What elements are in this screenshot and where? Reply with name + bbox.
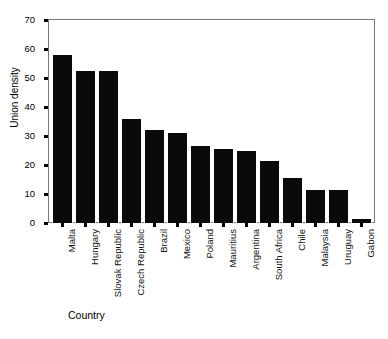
y-axis-tick-label: 20 (24, 160, 35, 170)
bar (282, 178, 303, 223)
y-axis-tick-mark (44, 193, 48, 196)
x-axis-ticks (49, 223, 374, 227)
x-axis-tick-mark (167, 223, 188, 227)
y-axis-tick-label: 60 (24, 44, 35, 54)
x-axis-tick-mark (236, 223, 257, 227)
y-axis-tick-mark (44, 135, 48, 138)
x-axis-tick-label-slot: Czech Republic (121, 229, 142, 309)
x-axis-tick-mark (98, 223, 119, 227)
bar (236, 151, 257, 224)
bar (121, 119, 142, 223)
x-axis-tick-mark (52, 223, 73, 227)
bar (52, 55, 73, 223)
y-axis-tick-mark (44, 77, 48, 80)
x-axis-tick-label-slot: Malaysia (305, 229, 326, 309)
y-axis-tick-mark (44, 48, 48, 51)
x-axis-tick-label-slot: Gabon (351, 229, 372, 309)
x-axis-tick-mark (328, 223, 349, 227)
x-axis-tick-label-slot: Poland (190, 229, 211, 309)
y-axis-tick-mark (44, 19, 48, 22)
x-axis-tick-label-slot: Mauritius (213, 229, 234, 309)
y-axis-tick-label: 40 (24, 102, 35, 112)
x-axis-tick-mark (190, 223, 211, 227)
bar (213, 149, 234, 223)
x-axis-tick-mark (305, 223, 326, 227)
x-axis-tick-mark (144, 223, 165, 227)
y-axis-title: Union density (9, 38, 20, 158)
bar (98, 71, 119, 223)
x-axis-tick-label-slot: Slovak Republic (98, 229, 119, 309)
y-axis-tick-label: 70 (24, 15, 35, 25)
bar-series (49, 20, 374, 223)
bar (259, 161, 280, 223)
x-axis-tick-label-slot: Argentina (236, 229, 257, 309)
bar (190, 146, 211, 223)
x-axis-title: Country (68, 309, 105, 321)
y-axis-tick-label: 10 (24, 189, 35, 199)
x-axis-tick-label-slot: South Africa (259, 229, 280, 309)
bar (305, 190, 326, 223)
x-axis-tick-mark (213, 223, 234, 227)
bar (328, 190, 349, 223)
x-axis-tick-mark (121, 223, 142, 227)
y-axis-tick-mark (44, 106, 48, 109)
x-axis-tick-label-slot: Hungary (75, 229, 96, 309)
y-axis-tick-label: 0 (30, 218, 35, 228)
x-axis-tick-label-slot: Mexico (167, 229, 188, 309)
bar (167, 133, 188, 223)
bar (144, 130, 165, 223)
bar (75, 71, 96, 223)
y-axis-tick-label: 50 (24, 73, 35, 83)
y-axis-tick-mark (44, 222, 48, 225)
x-axis-tick-label-slot: Chile (282, 229, 303, 309)
y-axis: Union density 010203040506070 (0, 0, 48, 339)
x-axis-tick-mark (282, 223, 303, 227)
x-axis-tick-labels: MaltaHungarySlovak RepublicCzech Republi… (49, 229, 374, 309)
x-axis-tick-label-slot: Uruguay (328, 229, 349, 309)
x-axis-tick-mark (259, 223, 280, 227)
x-axis-tick-label: Gabon (366, 229, 376, 258)
y-axis-tick-label: 30 (24, 131, 35, 141)
x-axis-tick-label-slot: Malta (52, 229, 73, 309)
x-axis-tick-mark (351, 223, 372, 227)
x-axis-tick-label-slot: Brazil (144, 229, 165, 309)
x-axis-tick-mark (75, 223, 96, 227)
y-axis-tick-mark (44, 164, 48, 167)
chart-figure: Union density 010203040506070 MaltaHunga… (0, 0, 388, 339)
